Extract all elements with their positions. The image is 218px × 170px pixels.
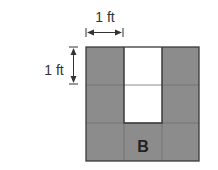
- cell-r2-c1: [86, 85, 124, 123]
- shape-label: B: [137, 138, 149, 155]
- cell-r1-c1: [86, 47, 124, 85]
- cell-r3-c1: [86, 123, 124, 161]
- height-dimension-arrow: [69, 47, 78, 84]
- cell-r3-c3: [162, 123, 199, 161]
- height-label: 1 ft: [44, 62, 64, 78]
- cell-r2-c3: [162, 85, 199, 123]
- u-shape-diagram: 1 ft 1 ft B: [0, 0, 218, 170]
- width-label: 1 ft: [95, 9, 115, 25]
- width-dimension-arrow: [86, 28, 123, 37]
- cell-r1-c3: [162, 47, 199, 85]
